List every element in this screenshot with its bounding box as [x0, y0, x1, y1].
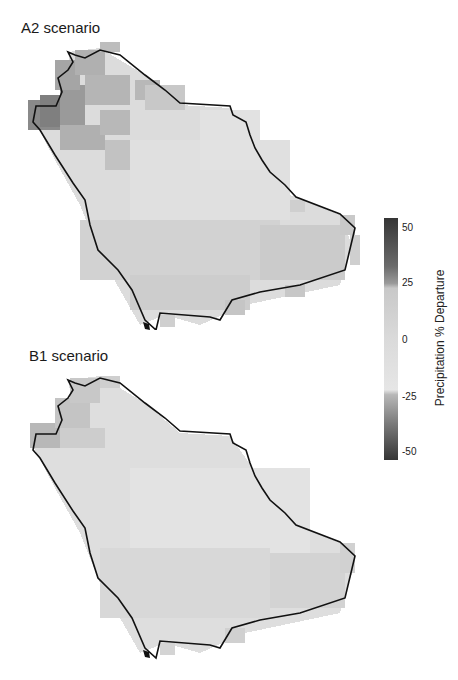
colorbar [384, 218, 398, 460]
map-a2-scenario [0, 40, 380, 330]
colorbar-tick-0: 0 [402, 334, 408, 345]
map-b1-scenario [0, 368, 380, 680]
colorbar-tick-25: 25 [402, 277, 413, 288]
colorbar-tick-minus-25: -25 [402, 391, 416, 402]
colorbar-tick-50: 50 [402, 222, 413, 233]
heat-cells [28, 42, 360, 327]
panel-title-b1: B1 scenario [29, 347, 108, 364]
heat-cells [30, 376, 355, 655]
panel-title-a2: A2 scenario [21, 19, 100, 36]
colorbar-title: Precipitation % Departure [433, 270, 447, 407]
colorbar-tick-minus-50: -50 [402, 446, 416, 457]
